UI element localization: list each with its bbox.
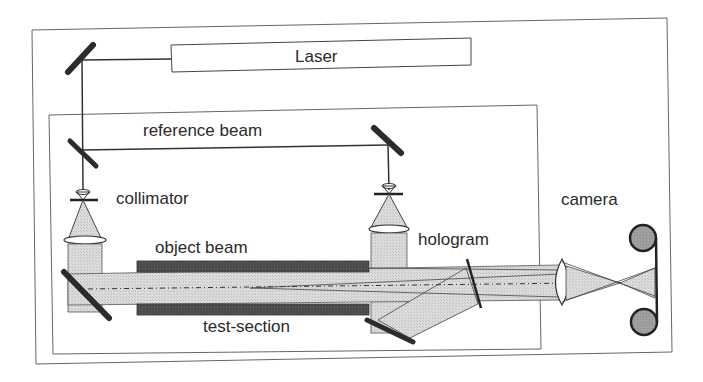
mirror-top-left-icon bbox=[68, 45, 93, 72]
test-section-bottom-wall bbox=[137, 304, 369, 315]
camera-label: camera bbox=[561, 190, 618, 209]
diverging-cone bbox=[620, 268, 655, 298]
focusing-cone bbox=[566, 266, 620, 300]
expanding-beam bbox=[68, 200, 102, 240]
collimating-lens-icon bbox=[64, 236, 106, 244]
test-section-label: test-section bbox=[203, 317, 290, 336]
camera-reel-bottom-icon bbox=[631, 309, 657, 335]
reference-beam-label: reference beam bbox=[143, 121, 262, 140]
object-beam-label: object beam bbox=[155, 238, 248, 257]
reference-beam-line bbox=[83, 145, 388, 150]
expanding-beam bbox=[370, 194, 408, 229]
test-section-top-wall bbox=[137, 261, 369, 272]
laser: Laser bbox=[171, 38, 471, 72]
laser-label: Laser bbox=[295, 47, 338, 66]
holography-setup-diagram: Laser reference beam collimator bbox=[0, 0, 703, 382]
vertical-beam bbox=[82, 60, 83, 190]
collimator-label: collimator bbox=[116, 189, 189, 208]
laser-beam bbox=[82, 59, 171, 60]
hologram-label: hologram bbox=[418, 230, 489, 249]
camera-reel-top-icon bbox=[630, 225, 656, 251]
camera-film-icon bbox=[656, 238, 657, 322]
collimating-lens-icon bbox=[369, 225, 409, 233]
